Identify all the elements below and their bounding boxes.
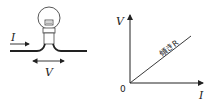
diagram-canvas: I V V I 0 傾きR	[0, 0, 215, 103]
x-axis-label: I	[198, 89, 204, 102]
light-bulb-circuit: I V	[10, 7, 87, 79]
y-axis-label: V	[116, 15, 125, 28]
current-label: I	[10, 31, 16, 44]
wire-right	[53, 44, 87, 51]
light-bulb-icon	[38, 7, 60, 44]
slope-line	[130, 36, 191, 83]
slope-label: 傾きR	[158, 38, 181, 58]
origin-label: 0	[120, 84, 126, 94]
vi-graph: V I 0 傾きR	[116, 15, 204, 102]
wire-left	[10, 44, 45, 51]
voltage-label: V	[45, 66, 54, 79]
